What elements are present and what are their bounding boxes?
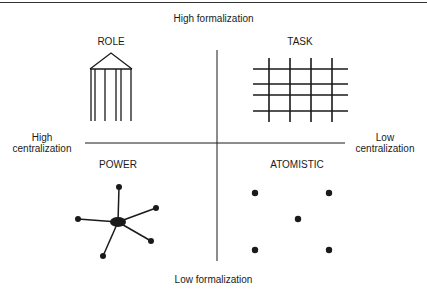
hub-spoke-icon [75,184,159,259]
quadrant-diagram [0,0,427,298]
temple-columns-icon [90,53,132,121]
grid-icon [253,58,348,122]
scattered-dots-icon [252,190,332,253]
axes [85,50,345,261]
